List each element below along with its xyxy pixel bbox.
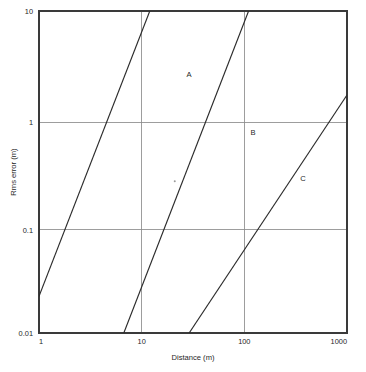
ytick-label-10: 10 (25, 7, 33, 16)
xtick-label-10: 10 (138, 337, 146, 346)
x-axis-title: Distance (m) (171, 353, 215, 362)
ytick-label-0.01: 0.01 (19, 329, 33, 338)
speck-mark (174, 180, 176, 182)
plot-area-background (39, 11, 347, 333)
ytick-label-1: 1 (29, 118, 33, 127)
xtick-label-1: 1 (39, 337, 43, 346)
ytick-label-0.1: 0.1 (23, 226, 33, 235)
series-label-c: C (300, 174, 306, 183)
xtick-label-100: 100 (238, 337, 250, 346)
rms-error-vs-distance-chart: 10 1 0.1 0.01 1 10 100 1000 Distance (m)… (0, 0, 366, 372)
y-axis-title: Rms error (m) (9, 148, 18, 196)
xtick-label-1000: 1000 (331, 337, 347, 346)
series-label-b: B (250, 128, 255, 137)
